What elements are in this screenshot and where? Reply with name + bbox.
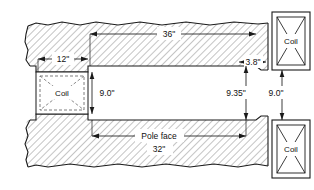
dimension-coil-width-label: 12" — [57, 54, 69, 64]
dimension-gap-mid-arrow-bottom — [244, 113, 249, 120]
dimension-gap-left-arrow-top — [90, 72, 95, 79]
figure-canvas: Coil Coil Coil 36" — [0, 0, 314, 190]
magnet-cross-section-diagram: Coil Coil Coil 36" — [0, 0, 314, 190]
coil-left-inner-label: Coil — [55, 89, 69, 98]
dimension-gap-left-label: 9.0" — [100, 88, 115, 98]
upper-yoke — [20, 18, 278, 78]
upper-yoke-hatch — [20, 18, 278, 78]
dimension-chamfer-label: 3.8" — [246, 57, 261, 67]
coil-top-right: Coil — [272, 12, 310, 70]
dimension-gap-left: 9.0" — [90, 72, 119, 114]
dimension-gap-right: 9.0" — [264, 70, 288, 120]
dimension-gap-mid: 9.35" — [222, 66, 251, 120]
dimension-gap-mid-label: 9.35" — [226, 88, 246, 98]
annotation-pole-face-value: 32" — [153, 144, 165, 154]
dimension-pole-length-label: 36" — [163, 29, 175, 39]
dimension-gap-right-label: 9.0" — [269, 88, 284, 98]
coil-top-right-label: Coil — [284, 37, 298, 46]
dimension-gap-right-arrow-top — [280, 70, 285, 77]
coil-bottom-right-label: Coil — [284, 145, 298, 154]
coil-left-inner: Coil — [36, 72, 88, 114]
annotation-pole-face-label: Pole face — [141, 131, 177, 141]
dimension-gap-left-arrow-bottom — [90, 107, 95, 114]
coil-bottom-right: Coil — [272, 120, 310, 178]
dimension-gap-right-arrow-bottom — [280, 113, 285, 120]
